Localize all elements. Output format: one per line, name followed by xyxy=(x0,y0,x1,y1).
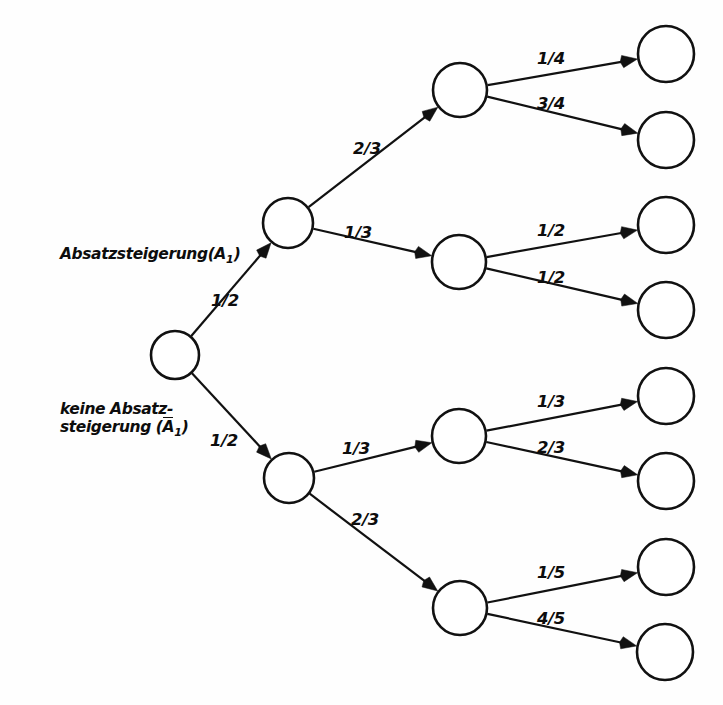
diagram-canvas: 1/21/22/31/31/32/31/43/41/21/21/32/31/54… xyxy=(0,0,723,705)
leaf-node-7[interactable] xyxy=(638,539,694,595)
edge-level1down-to-node3 xyxy=(314,440,432,471)
edge-level1up-to-node1-arrowhead xyxy=(422,107,438,121)
edge-node1-to-leaf2-probability-label: 3/4 xyxy=(537,94,565,113)
edge-node2-to-leaf4-probability-label: 1/2 xyxy=(537,268,565,287)
leaf-node-2[interactable] xyxy=(638,112,694,168)
edge-root-to-level1-up-probability-label: 1/2 xyxy=(211,291,239,310)
label-absatzsteigerung-main: Absatzsteigerung(A xyxy=(60,245,226,263)
leaf-node-3[interactable] xyxy=(638,197,694,253)
edge-node2-to-leaf3-arrowhead xyxy=(620,227,637,239)
label-absatzsteigerung-tail: ) xyxy=(234,245,241,263)
overline-a-symbol: A xyxy=(163,418,175,436)
label-keine-absatzsteigerung-line2: steigerung (A1) xyxy=(60,418,189,440)
edge-node4-to-leaf7-probability-label: 1/5 xyxy=(537,563,565,582)
edge-node4-to-leaf8-arrowhead xyxy=(620,637,637,649)
level2-node-4[interactable] xyxy=(433,581,487,635)
edge-level1up-to-node1-line xyxy=(309,116,426,207)
probability-tree-svg xyxy=(0,0,723,705)
edge-level1down-to-node3-probability-label: 1/3 xyxy=(342,439,370,458)
edge-level1up-to-node1-probability-label: 2/3 xyxy=(353,139,381,158)
edge-level1up-to-node2-probability-label: 1/3 xyxy=(344,223,372,242)
edge-node2-to-leaf4-arrowhead xyxy=(621,294,638,306)
label-keine-absatzsteigerung-sub: 1 xyxy=(174,426,182,439)
label-keine-absatzsteigerung-tail: ) xyxy=(182,418,189,436)
edge-level1down-to-node3-arrowhead xyxy=(415,440,432,452)
edge-node3-to-leaf6-arrowhead xyxy=(621,466,638,478)
label-keine-absatzsteigerung: keine Absatz- steigerung (A1) xyxy=(60,400,189,440)
edge-level1down-to-node4-line xyxy=(310,494,426,582)
edge-level1down-to-node4-arrowhead xyxy=(422,577,438,591)
label-absatzsteigerung: Absatzsteigerung(A1) xyxy=(60,245,240,267)
edge-node1-to-leaf1-probability-label: 1/4 xyxy=(537,49,565,68)
level1-node-down[interactable] xyxy=(264,453,314,503)
leaf-node-5[interactable] xyxy=(638,368,694,424)
leaf-node-4[interactable] xyxy=(638,282,694,338)
label-keine-absatzsteigerung-line2-pre: steigerung ( xyxy=(60,418,163,436)
edges-group xyxy=(191,55,638,648)
edge-node4-to-leaf8-probability-label: 4/5 xyxy=(537,609,565,628)
level2-node-3[interactable] xyxy=(432,409,486,463)
edge-level1up-to-node2-arrowhead xyxy=(415,246,432,258)
level2-node-1[interactable] xyxy=(433,63,487,117)
label-keine-absatzsteigerung-line1: keine Absatz- xyxy=(60,400,189,418)
leaf-node-1[interactable] xyxy=(638,26,694,82)
edge-level1up-to-node2 xyxy=(313,229,431,259)
edge-node2-to-leaf3-probability-label: 1/2 xyxy=(537,221,565,240)
edge-node3-to-leaf5-arrowhead xyxy=(620,398,637,410)
edge-level1down-to-node4-probability-label: 2/3 xyxy=(351,510,379,529)
edge-node3-to-leaf5-probability-label: 1/3 xyxy=(537,392,565,411)
edge-node3-to-leaf6-probability-label: 2/3 xyxy=(537,438,565,457)
edge-node1-to-leaf1-arrowhead xyxy=(620,55,637,67)
level1-node-up[interactable] xyxy=(263,198,313,248)
nodes-group xyxy=(151,26,694,680)
edge-node4-to-leaf7-arrowhead xyxy=(620,570,637,582)
edge-node1-to-leaf2-arrowhead xyxy=(621,124,638,136)
edge-root-to-level1-down-probability-label: 1/2 xyxy=(210,431,238,450)
level2-node-2[interactable] xyxy=(432,235,486,289)
edge-level1down-to-node4 xyxy=(310,494,438,591)
leaf-node-6[interactable] xyxy=(638,453,694,509)
label-absatzsteigerung-sub: 1 xyxy=(226,253,234,266)
root-node[interactable] xyxy=(151,331,199,379)
leaf-node-8[interactable] xyxy=(637,624,693,680)
